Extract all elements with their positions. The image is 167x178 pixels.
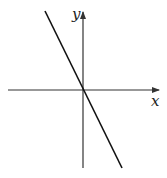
coordinate-plot: x y [0,0,167,178]
x-axis-label: x [151,92,160,110]
y-axis-label: y [71,5,81,23]
